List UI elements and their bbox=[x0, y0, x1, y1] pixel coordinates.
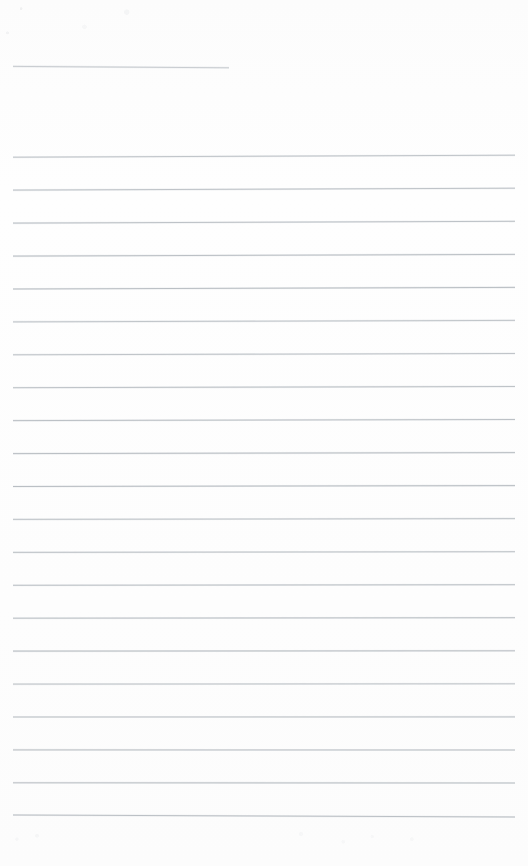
rule-halo-group bbox=[13, 66, 515, 817]
rule-line bbox=[13, 618, 515, 619]
rule-stroke-group bbox=[13, 66, 515, 817]
rule-line bbox=[13, 585, 515, 586]
ruled-lines-layer bbox=[0, 0, 528, 866]
rule-line bbox=[13, 552, 515, 553]
notepaper-page bbox=[0, 0, 528, 866]
